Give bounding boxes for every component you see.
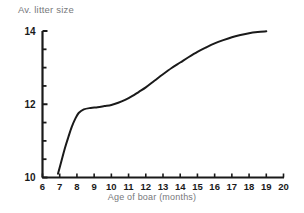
x-axis-tick-label: 9 xyxy=(91,181,96,192)
x-axis-title: Age of boar (months) xyxy=(0,192,304,202)
y-axis-tick-label: 12 xyxy=(24,99,36,110)
y-axis-tick-label: 10 xyxy=(24,172,36,183)
data-series-line xyxy=(58,31,266,173)
y-axis-tick-labels: 101214 xyxy=(24,26,36,184)
x-axis-tick-label: 15 xyxy=(192,181,203,192)
x-axis-tick-label: 19 xyxy=(261,181,272,192)
x-axis-tick-label: 18 xyxy=(244,181,255,192)
x-axis-tick-label: 10 xyxy=(106,181,117,192)
y-axis-tick-label: 14 xyxy=(24,26,36,37)
line-chart-plot: 101214 67891011121314151617181920 xyxy=(0,0,304,213)
x-axis-tick-label: 12 xyxy=(140,181,151,192)
x-axis-tick-label: 17 xyxy=(227,181,238,192)
x-axis-tick-label: 6 xyxy=(40,181,45,192)
x-axis-tick-label: 20 xyxy=(278,181,289,192)
x-axis-tick-label: 11 xyxy=(124,181,135,192)
x-axis-tick-label: 8 xyxy=(74,181,79,192)
x-axis-tick-label: 7 xyxy=(57,181,62,192)
x-axis-tick-label: 16 xyxy=(209,181,220,192)
chart-container: Av. litter size 101214 67891011121314151… xyxy=(0,0,304,213)
axis-lines xyxy=(42,31,284,178)
x-axis-tick-labels: 67891011121314151617181920 xyxy=(40,181,289,192)
x-axis-tick-label: 14 xyxy=(175,181,186,192)
x-axis-tick-label: 13 xyxy=(158,181,169,192)
